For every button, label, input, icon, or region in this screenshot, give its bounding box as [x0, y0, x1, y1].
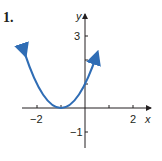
parabola-chart: −2 2 3 −1 x y — [0, 0, 162, 161]
y-axis-label: y — [75, 10, 83, 22]
tick-label-neg2: −2 — [30, 113, 43, 125]
x-axis-label: x — [144, 113, 151, 125]
parabola-curve — [25, 54, 97, 108]
tick-label-neg1: −1 — [70, 126, 83, 138]
tick-label-3: 3 — [74, 30, 80, 42]
tick-label-2: 2 — [130, 113, 136, 125]
